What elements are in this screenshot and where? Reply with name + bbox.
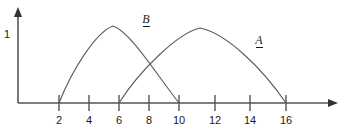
curve-b-path: [59, 26, 179, 103]
curve-label-b-underline: [143, 26, 150, 27]
up-arrow-icon: [14, 7, 22, 17]
curve-label-b-text: B: [142, 12, 149, 26]
x-axis-tick-label-12: 12: [205, 114, 225, 126]
curve-label-a-text: A: [255, 33, 262, 47]
x-axis-tick-label-2: 2: [49, 114, 69, 126]
curve-label-b: B: [140, 13, 152, 27]
x-axis-tick-label-14: 14: [240, 114, 260, 126]
chart-figure: 1 2 4 6 8 10 12 14 16 B A: [0, 0, 344, 134]
curve-label-a: A: [253, 34, 265, 48]
x-axis-tick-label-8: 8: [139, 114, 159, 126]
x-axis-tick-label-6: 6: [109, 114, 129, 126]
y-axis-tick-label-1: 1: [4, 28, 10, 40]
curve-label-a-underline: [256, 47, 263, 48]
x-axis-tick-label-16: 16: [276, 114, 296, 126]
right-arrow-icon: [328, 99, 338, 107]
x-axis-tick-label-4: 4: [79, 114, 99, 126]
x-axis-tick-label-10: 10: [169, 114, 189, 126]
